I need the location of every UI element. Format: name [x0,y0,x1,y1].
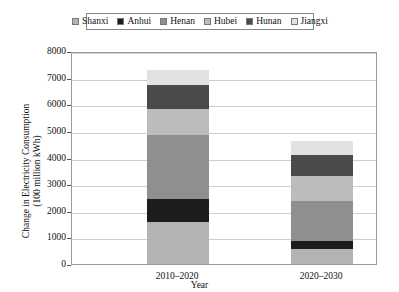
legend-item-shanxi[interactable]: Shanxi [72,17,108,27]
bar-segment-shanxi[interactable] [147,222,209,264]
legend-swatch-hunan-icon [246,18,253,25]
chart-legend: ShanxiAnhuiHenanHubeiHunanJiangxi [86,13,314,30]
y-tick-label: 5000 [30,127,66,137]
legend-label: Anhui [127,17,151,27]
legend-item-henan[interactable]: Henan [160,17,195,27]
bar-segment-hunan[interactable] [147,85,209,108]
legend-swatch-jiangxi-icon [291,18,298,25]
stacked-bar[interactable] [291,141,353,264]
bar-segment-shanxi[interactable] [291,249,353,264]
stacked-bar[interactable] [147,70,209,264]
bar-segment-hubei[interactable] [147,109,209,136]
legend-item-hubei[interactable]: Hubei [204,17,237,27]
grid-line [72,53,376,54]
y-tick-label: 1000 [30,233,66,243]
y-tick-label: 2000 [30,207,66,217]
legend-label: Jiangxi [301,17,328,27]
legend-item-jiangxi[interactable]: Jiangxi [291,17,328,27]
legend-label: Hubei [214,17,237,27]
legend-swatch-anhui-icon [117,18,124,25]
legend-swatch-shanxi-icon [72,18,79,25]
y-tick-label: 4000 [30,154,66,164]
bar-segment-hubei[interactable] [291,176,353,201]
figure-canvas: ShanxiAnhuiHenanHubeiHunanJiangxi Change… [0,0,399,292]
legend-label: Shanxi [82,17,108,27]
grid-line [72,80,376,81]
bar-segment-henan[interactable] [147,135,209,199]
y-tick-label: 7000 [30,74,66,84]
legend-label: Henan [170,17,195,27]
x-axis-title: Year [0,281,399,291]
y-tick-label: 8000 [30,47,66,57]
bar-segment-anhui[interactable] [291,241,353,249]
y-tick-label: 0 [30,260,66,270]
legend-swatch-hubei-icon [204,18,211,25]
bar-segment-anhui[interactable] [147,199,209,222]
legend-swatch-henan-icon [160,18,167,25]
grid-line [72,133,376,134]
y-axis-title: Change in Electricity Consumption (100 m… [2,60,28,260]
y-tick-mark [67,265,71,266]
grid-line [72,106,376,107]
bar-segment-jiangxi[interactable] [147,70,209,86]
legend-item-anhui[interactable]: Anhui [117,17,151,27]
y-tick-label: 6000 [30,100,66,110]
y-tick-label: 3000 [30,180,66,190]
legend-label: Hunan [256,17,281,27]
y-axis-title-line1: Change in Electricity Consumption [21,104,31,238]
bar-segment-hunan[interactable] [291,155,353,176]
plot-area [71,52,377,265]
legend-item-hunan[interactable]: Hunan [246,17,281,27]
y-axis-title-line2: (100 million kWh) [32,135,42,206]
bar-segment-henan[interactable] [291,201,353,241]
bar-segment-jiangxi[interactable] [291,141,353,155]
